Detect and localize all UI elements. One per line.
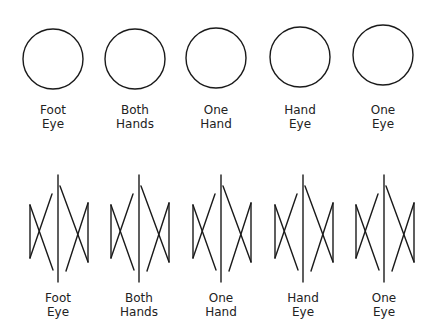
bowtie-figure <box>356 175 414 282</box>
label-line-2: Hand <box>181 117 251 131</box>
bowtie-label: OneHand <box>186 291 256 319</box>
circle-label: HandEye <box>265 103 335 131</box>
label-line-2: Eye <box>18 117 88 131</box>
label-line-1: Foot <box>23 291 93 305</box>
circle-figure <box>353 25 413 85</box>
label-line-1: Foot <box>18 103 88 117</box>
circle-figure <box>23 29 83 89</box>
label-line-2: Eye <box>268 305 338 319</box>
bowtie-figure <box>30 175 88 282</box>
label-line-1: Both <box>100 103 170 117</box>
label-line-2: Hand <box>186 305 256 319</box>
circle-label: BothHands <box>100 103 170 131</box>
label-line-2: Eye <box>348 117 418 131</box>
circle-figure <box>105 29 165 89</box>
label-line-2: Hands <box>100 117 170 131</box>
bowtie-label: BothHands <box>104 291 174 319</box>
label-line-2: Eye <box>349 305 419 319</box>
bowtie-label: HandEye <box>268 291 338 319</box>
circle-figure <box>270 27 330 87</box>
label-line-1: Hand <box>265 103 335 117</box>
label-line-1: One <box>186 291 256 305</box>
figure-canvas <box>0 0 436 321</box>
circle-label: OneEye <box>348 103 418 131</box>
bowtie-figure <box>275 175 333 282</box>
bowtie-label: FootEye <box>23 291 93 319</box>
label-line-1: Hand <box>268 291 338 305</box>
circle-figure <box>186 28 246 88</box>
circle-label: OneHand <box>181 103 251 131</box>
bowtie-figure <box>193 175 251 282</box>
label-line-1: One <box>349 291 419 305</box>
label-line-1: One <box>181 103 251 117</box>
label-line-2: Eye <box>23 305 93 319</box>
label-line-2: Eye <box>265 117 335 131</box>
bowtie-figure <box>111 175 169 282</box>
bowtie-label: OneEye <box>349 291 419 319</box>
label-line-1: Both <box>104 291 174 305</box>
circle-label: FootEye <box>18 103 88 131</box>
label-line-1: One <box>348 103 418 117</box>
label-line-2: Hands <box>104 305 174 319</box>
